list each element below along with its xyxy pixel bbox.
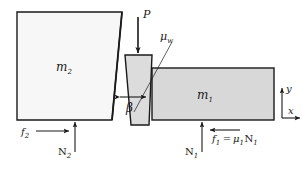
force-label-f2: f2 (20, 126, 30, 140)
block-m2 (17, 12, 122, 120)
axis-label-y: y (285, 83, 292, 94)
force-label-P: P (142, 8, 151, 21)
force-label-N1: N1 (185, 146, 198, 160)
force-label-f1-equation: f1=μ1N1 (211, 133, 258, 147)
axis-label-x: x (288, 105, 294, 116)
diagram-canvas: P μw β f2 N2 N1 f1=μ1N1 m2 m1 y x (0, 0, 303, 170)
block-m1 (152, 68, 274, 120)
force-label-N2: N2 (58, 146, 72, 160)
annotation-label-mu-w: μw (160, 30, 173, 45)
annotation-label-beta: β (125, 101, 133, 115)
free-body-diagram: P μw β f2 N2 N1 f1=μ1N1 m2 m1 y x (0, 0, 303, 170)
